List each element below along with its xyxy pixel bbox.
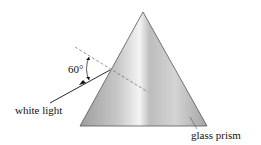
glass-prism-label: glass prism xyxy=(191,130,241,141)
angle-arc xyxy=(87,57,90,80)
arc-arrow-bottom-icon xyxy=(86,77,90,80)
arc-arrow-top-icon xyxy=(86,57,90,60)
glass-prism xyxy=(80,12,207,126)
prism-diagram xyxy=(0,0,261,145)
angle-label: 60° xyxy=(68,64,83,75)
white-light-label: white light xyxy=(15,105,62,116)
